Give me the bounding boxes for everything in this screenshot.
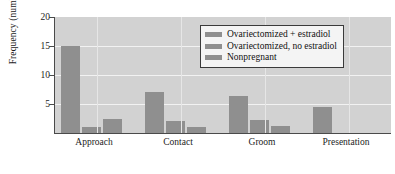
y-axis-title: Frequency (number/6 h) bbox=[8, 0, 22, 80]
bar bbox=[145, 92, 164, 133]
y-tick-label: 15 bbox=[30, 41, 50, 51]
bar-chart-figure: Frequency (number/6 h) 5101520 Ovariecto… bbox=[0, 0, 395, 174]
x-tick-label: Groom bbox=[249, 137, 276, 147]
bar bbox=[61, 46, 80, 133]
bar bbox=[187, 127, 206, 133]
legend-swatch-icon bbox=[205, 32, 222, 37]
bar bbox=[103, 119, 122, 134]
legend-swatch-icon bbox=[205, 44, 222, 49]
vertical-gridline bbox=[97, 17, 98, 133]
x-axis-spine bbox=[54, 133, 391, 134]
legend-item: Ovariectomized, no estradiol bbox=[205, 41, 337, 53]
bar bbox=[271, 126, 290, 133]
x-tick-label: Presentation bbox=[323, 137, 370, 147]
legend-label: Ovariectomized, no estradiol bbox=[227, 41, 337, 53]
bar-group bbox=[61, 17, 122, 133]
legend-swatch-icon bbox=[205, 55, 222, 60]
y-tick-mark bbox=[49, 17, 55, 18]
x-axis-tick-labels: ApproachContactGroomPresentation bbox=[55, 137, 391, 153]
bar bbox=[229, 96, 248, 133]
x-tick-label: Approach bbox=[75, 137, 112, 147]
bar bbox=[313, 107, 332, 133]
y-axis-tick-labels: 5101520 bbox=[28, 0, 50, 174]
x-tick-label: Contact bbox=[163, 137, 193, 147]
legend-item: Nonpregnant bbox=[205, 52, 337, 64]
y-tick-label: 20 bbox=[30, 12, 50, 22]
bar-group bbox=[145, 17, 206, 133]
y-tick-mark bbox=[49, 75, 55, 76]
y-tick-label: 5 bbox=[30, 99, 50, 109]
y-tick-label: 10 bbox=[30, 70, 50, 80]
legend-label: Ovariectomized + estradiol bbox=[227, 29, 330, 41]
vertical-gridline bbox=[349, 17, 350, 133]
y-tick-mark bbox=[49, 46, 55, 47]
legend-item: Ovariectomized + estradiol bbox=[205, 29, 337, 41]
legend-label: Nonpregnant bbox=[227, 52, 277, 64]
vertical-gridline bbox=[181, 17, 182, 133]
chart-legend: Ovariectomized + estradiolOvariectomized… bbox=[200, 25, 344, 68]
y-tick-mark bbox=[49, 104, 55, 105]
